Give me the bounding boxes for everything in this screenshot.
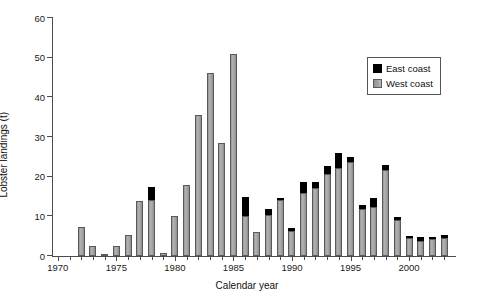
y-axis-tick bbox=[47, 176, 52, 177]
x-axis-tick bbox=[351, 256, 352, 261]
bar-segment-east-coast bbox=[148, 187, 155, 200]
bar-segment-west-coast bbox=[230, 54, 237, 256]
x-axis-tick bbox=[198, 256, 199, 260]
x-axis-tick bbox=[233, 256, 234, 261]
bar-segment-west-coast bbox=[370, 207, 377, 256]
chart-legend: East coast West coast bbox=[367, 57, 441, 95]
x-axis-tick-label: 1995 bbox=[340, 263, 361, 273]
x-axis-tick bbox=[163, 256, 164, 260]
bar-segment-west-coast bbox=[347, 162, 354, 256]
x-axis-tick bbox=[397, 256, 398, 260]
y-axis-tick-label: 60 bbox=[34, 13, 45, 23]
y-axis-tick bbox=[47, 215, 52, 216]
bar-segment-west-coast bbox=[148, 200, 155, 256]
black-square-icon bbox=[373, 64, 382, 73]
x-axis-tick bbox=[421, 256, 422, 260]
bar-segment-west-coast bbox=[417, 241, 424, 256]
x-axis-tick-label: 2000 bbox=[398, 263, 419, 273]
x-axis-tick bbox=[327, 256, 328, 260]
y-axis-tick bbox=[47, 96, 52, 97]
x-axis-tick bbox=[304, 256, 305, 260]
x-axis-tick-label: 1990 bbox=[281, 263, 302, 273]
x-axis-tick bbox=[386, 256, 387, 260]
bar-segment-west-coast bbox=[136, 201, 143, 256]
bar-segment-west-coast bbox=[125, 235, 132, 256]
x-axis-tick bbox=[152, 256, 153, 260]
x-axis-tick-label: 1980 bbox=[164, 263, 185, 273]
bar-segment-east-coast bbox=[370, 198, 377, 207]
bar-segment-east-coast bbox=[335, 153, 342, 168]
bar-segment-east-coast bbox=[312, 182, 319, 188]
bar-segment-west-coast bbox=[171, 216, 178, 256]
bar-segment-west-coast bbox=[242, 216, 249, 256]
bar-segment-west-coast bbox=[160, 253, 167, 256]
bar-segment-west-coast bbox=[359, 209, 366, 256]
x-axis-tick bbox=[362, 256, 363, 260]
bar-segment-east-coast bbox=[288, 228, 295, 232]
bar-segment-east-coast bbox=[394, 217, 401, 220]
legend-label-east-coast: East coast bbox=[386, 64, 430, 74]
x-axis-tick bbox=[269, 256, 270, 260]
x-axis-tick bbox=[444, 256, 445, 260]
bar-segment-west-coast bbox=[207, 73, 214, 256]
x-axis-tick bbox=[175, 256, 176, 261]
legend-label-west-coast: West coast bbox=[386, 79, 433, 89]
y-axis-tick-label: 40 bbox=[34, 93, 45, 103]
y-axis-tick-label: 10 bbox=[34, 212, 45, 222]
x-axis-tick bbox=[339, 256, 340, 260]
y-axis-tick-label: 30 bbox=[34, 132, 45, 142]
y-axis-tick bbox=[47, 136, 52, 137]
bar-segment-west-coast bbox=[312, 188, 319, 256]
bar-segment-east-coast bbox=[382, 165, 389, 169]
x-axis-tick bbox=[374, 256, 375, 260]
x-axis-tick bbox=[292, 256, 293, 261]
lobster-landings-chart: 0102030405060197019751980198519901995200… bbox=[0, 0, 494, 304]
bar-segment-west-coast bbox=[218, 143, 225, 256]
x-axis-tick bbox=[210, 256, 211, 260]
y-axis-tick-label: 50 bbox=[34, 53, 45, 63]
x-axis-tick bbox=[257, 256, 258, 260]
bar-segment-west-coast bbox=[324, 174, 331, 256]
x-axis-tick bbox=[81, 256, 82, 260]
x-axis-tick bbox=[58, 256, 59, 261]
bar-segment-west-coast bbox=[335, 168, 342, 256]
bar-segment-west-coast bbox=[406, 238, 413, 256]
legend-item-east-coast: East coast bbox=[373, 62, 433, 75]
x-axis-tick bbox=[105, 256, 106, 260]
bar-segment-west-coast bbox=[429, 239, 436, 256]
plot-area: 0102030405060197019751980198519901995200… bbox=[52, 18, 450, 256]
bar-segment-east-coast bbox=[429, 237, 436, 239]
bar-segment-east-coast bbox=[417, 237, 424, 241]
bar-segment-east-coast bbox=[242, 197, 249, 216]
y-axis-tick bbox=[47, 17, 52, 18]
x-axis-tick-label: 1985 bbox=[223, 263, 244, 273]
bar-segment-east-coast bbox=[300, 182, 307, 194]
x-axis-tick bbox=[140, 256, 141, 260]
x-axis-tick bbox=[245, 256, 246, 260]
bar-segment-east-coast bbox=[406, 236, 413, 238]
x-axis-tick bbox=[93, 256, 94, 260]
y-axis-tick-label: 0 bbox=[40, 251, 45, 261]
x-axis-tick bbox=[280, 256, 281, 260]
bar-segment-west-coast bbox=[253, 232, 260, 256]
bar-segment-west-coast bbox=[101, 254, 108, 256]
bar-segment-west-coast bbox=[89, 246, 96, 256]
bar-segment-west-coast bbox=[195, 115, 202, 256]
bar-segment-east-coast bbox=[324, 166, 331, 175]
bar-segment-east-coast bbox=[265, 209, 272, 215]
x-axis-tick bbox=[70, 256, 71, 260]
x-axis-tick-label: 1975 bbox=[106, 263, 127, 273]
bar-segment-west-coast bbox=[113, 246, 120, 256]
y-axis-tick bbox=[47, 255, 52, 256]
x-axis-title: Calendar year bbox=[0, 280, 494, 291]
x-axis-tick-label: 1970 bbox=[47, 263, 68, 273]
bar-segment-east-coast bbox=[347, 157, 354, 162]
bar-segment-west-coast bbox=[78, 227, 85, 256]
bar-segment-west-coast bbox=[277, 200, 284, 256]
bar-segment-west-coast bbox=[441, 238, 448, 256]
x-axis-tick bbox=[187, 256, 188, 260]
x-axis-tick bbox=[116, 256, 117, 261]
bar-segment-west-coast bbox=[300, 193, 307, 256]
bar-segment-west-coast bbox=[394, 220, 401, 256]
bar-segment-west-coast bbox=[183, 185, 190, 256]
